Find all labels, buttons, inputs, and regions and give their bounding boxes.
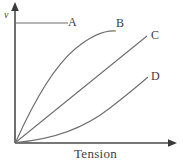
curve-label-c: C xyxy=(151,29,159,41)
y-axis-label: v xyxy=(4,10,8,20)
y-axis-arrow-icon xyxy=(11,2,19,11)
curve-d xyxy=(16,77,149,143)
curve-b xyxy=(16,31,117,143)
curve-label-d: D xyxy=(151,70,160,82)
graph-figure: v Tension A B C D xyxy=(0,0,183,167)
x-axis-arrow-icon xyxy=(168,139,177,147)
plot-canvas xyxy=(0,0,183,167)
curve-label-b: B xyxy=(116,17,124,29)
x-axis-label: Tension xyxy=(74,147,117,160)
curve-c xyxy=(16,36,148,143)
curve-label-a: A xyxy=(68,16,77,28)
